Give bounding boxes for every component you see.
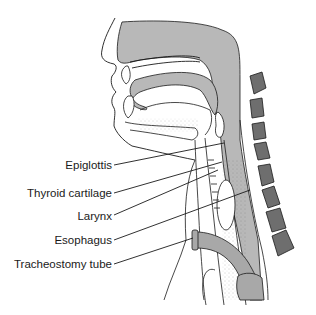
tube-cuff: [237, 273, 264, 300]
label-esophagus: Esophagus: [54, 234, 112, 247]
label-tracheostomy-tube: Tracheostomy tube: [14, 258, 112, 271]
vertebra-c3: [252, 122, 266, 140]
vertebra-c2: [250, 98, 264, 118]
label-thyroid-cartilage: Thyroid cartilage: [27, 187, 112, 200]
lower-teeth: [124, 96, 135, 118]
vertebra-c5: [258, 164, 274, 186]
vertebra-c6: [262, 186, 280, 208]
airway-wall-left: [195, 140, 206, 305]
leader-larynx: [114, 170, 218, 215]
leader-thyroid-cartilage: [114, 162, 222, 193]
label-epiglottis: Epiglottis: [65, 159, 112, 172]
vertebra-t1: [272, 230, 294, 256]
upper-teeth: [122, 66, 131, 84]
neck-front: [164, 160, 195, 300]
stipple-jaw: [138, 118, 198, 132]
leader-tracheostomy-tube: [114, 238, 193, 264]
larynx-shape: [217, 180, 235, 230]
vertebra-c1: [250, 72, 266, 94]
vertebra-c7: [266, 208, 286, 232]
label-larynx: Larynx: [77, 210, 112, 223]
tube-flange: [192, 230, 198, 250]
vertebra-c4: [254, 142, 270, 160]
